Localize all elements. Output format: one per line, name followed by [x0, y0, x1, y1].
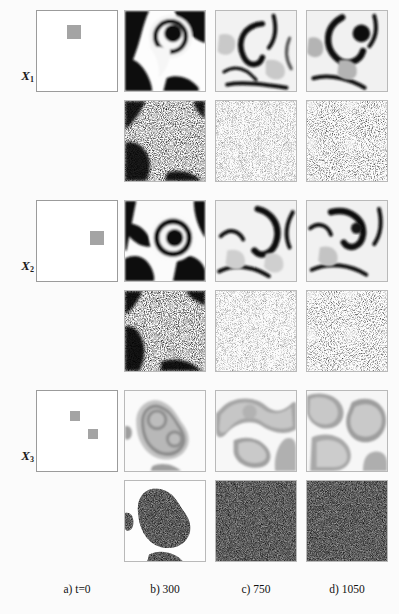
- panel-x1-noise-t750: [215, 100, 297, 182]
- panel-x1-t1050: [306, 10, 388, 92]
- column-caption-b: b) 300: [124, 583, 206, 595]
- panel-x1-t300: [124, 10, 206, 92]
- panel-x2-noise-t750: [215, 290, 297, 372]
- figure-panel-grid: X1 X2 X3: [0, 0, 399, 614]
- panel-x2-t750: [215, 200, 297, 282]
- panel-x2-t300: [124, 200, 206, 282]
- column-caption-c: c) 750: [215, 583, 297, 595]
- panel-x2-noise-t1050: [306, 290, 388, 372]
- panel-x2-noise-t300: [124, 290, 206, 372]
- panel-x3-t750: [215, 390, 297, 472]
- panel-x2-t0: [36, 200, 118, 282]
- panel-x3-noise-t750: [215, 480, 297, 562]
- panel-x3-t0: [36, 390, 118, 472]
- row-label-x1: X1: [4, 68, 34, 84]
- panel-x3-noise-t1050: [306, 480, 388, 562]
- panel-x1-noise-t1050: [306, 100, 388, 182]
- seed-square: [70, 411, 80, 421]
- column-caption-a: a) t=0: [36, 583, 118, 595]
- seed-square: [67, 25, 81, 39]
- seed-square: [90, 231, 104, 245]
- panel-x1-t750: [215, 10, 297, 92]
- row-label-x3: X3: [4, 448, 34, 464]
- column-caption-d: d) 1050: [306, 583, 388, 595]
- panel-x1-noise-t300: [124, 100, 206, 182]
- panel-x3-t300: [124, 390, 206, 472]
- panel-x1-t0: [36, 10, 118, 92]
- seed-square: [88, 429, 98, 439]
- row-label-x2: X2: [4, 258, 34, 274]
- panel-x2-t1050: [306, 200, 388, 282]
- panel-x3-t1050: [306, 390, 388, 472]
- panel-x3-noise-t300: [124, 480, 206, 562]
